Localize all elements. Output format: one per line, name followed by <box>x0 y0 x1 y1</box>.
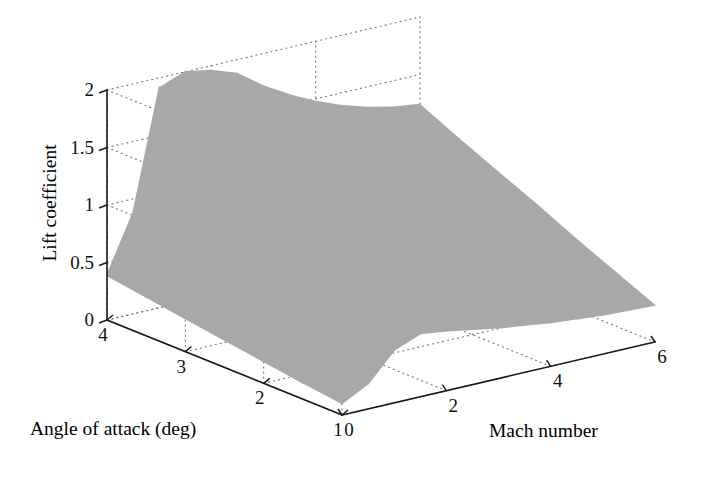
mach-tick-label-6: 6 <box>657 346 667 367</box>
mach-tick-4 <box>547 360 551 366</box>
lift-coefficient-axis-title: Lift coefficient <box>39 123 61 283</box>
z-tick-0.5 <box>99 263 107 266</box>
surface-plot-svg: 00.511.5243210246 <box>0 0 708 485</box>
z-tick-0 <box>99 320 107 323</box>
z-tick-label-0: 0 <box>85 309 95 330</box>
aoa-tick-label-4: 4 <box>98 324 108 345</box>
surface-mesh <box>106 70 656 405</box>
mach-tick-6 <box>651 336 655 342</box>
mach-tick-label-0: 0 <box>344 419 354 440</box>
z-tick-2 <box>99 90 107 93</box>
mach-tick-label-2: 2 <box>449 395 459 416</box>
z-tick-label-1.5: 1.5 <box>70 137 94 158</box>
z-tick-1 <box>99 205 107 208</box>
mach-tick-2 <box>442 385 446 391</box>
aoa-tick-label-2: 2 <box>255 387 265 408</box>
z-tick-1.5 <box>99 148 107 151</box>
z-tick-label-1: 1 <box>85 194 95 215</box>
angle-of-attack-axis-title: Angle of attack (deg) <box>30 418 196 440</box>
aoa-tick-label-1: 1 <box>333 419 343 440</box>
z-tick-label-2: 2 <box>85 79 95 100</box>
figure-container: 00.511.5243210246 Angle of attack (deg) … <box>0 0 708 485</box>
rightwall-horiz-z-2 <box>107 17 420 90</box>
aoa-tick-label-3: 3 <box>177 356 187 377</box>
mach-tick-label-4: 4 <box>553 370 563 391</box>
z-tick-label-0.5: 0.5 <box>70 252 94 273</box>
mach-number-axis-title: Mach number <box>489 420 598 442</box>
